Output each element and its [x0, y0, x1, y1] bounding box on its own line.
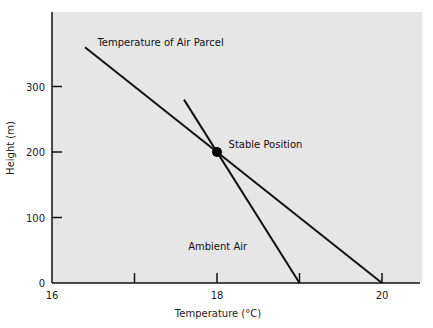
chart: 161820 0100200300 Temperature of Air Par… [0, 0, 433, 328]
stable-position-marker [212, 147, 222, 157]
annotation-label: Stable Position [229, 139, 303, 150]
x-tick-label: 18 [211, 290, 224, 301]
y-tick-label: 0 [39, 278, 45, 289]
annotation-label: Temperature of Air Parcel [96, 37, 223, 48]
y-tick-label: 300 [26, 82, 45, 93]
x-axis-title: Temperature (°C) [174, 308, 261, 319]
annotation-label: Ambient Air [188, 241, 248, 252]
y-axis-title: Height (m) [5, 121, 16, 175]
y-tick-label: 200 [26, 147, 45, 158]
y-tick-label: 100 [26, 213, 45, 224]
marker-layer [212, 147, 222, 157]
x-tick-label: 16 [46, 290, 59, 301]
x-tick-label: 20 [376, 290, 389, 301]
